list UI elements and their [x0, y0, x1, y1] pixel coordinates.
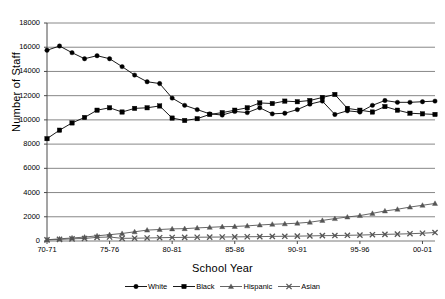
legend-marker-circle-icon	[125, 282, 147, 291]
legend-item-asian: Asian	[278, 281, 320, 291]
plot-area	[0, 0, 445, 299]
legend-marker-cross-icon	[278, 282, 300, 291]
legend-label: Asian	[301, 282, 320, 291]
staff-by-race-line-chart: Number of Staff 020004000600080001000012…	[0, 0, 445, 299]
legend-item-white: White	[125, 281, 167, 291]
legend-marker-square-icon	[173, 282, 195, 291]
legend-item-black: Black	[173, 281, 214, 291]
legend-label: Hispanic	[243, 282, 272, 291]
x-axis-title: School Year	[0, 262, 445, 274]
legend-marker-triangle-icon	[220, 282, 242, 291]
legend-label: White	[148, 282, 167, 291]
legend-label: Black	[196, 282, 214, 291]
legend-item-hispanic: Hispanic	[220, 281, 272, 291]
chart-legend: WhiteBlackHispanicAsian	[0, 281, 445, 291]
